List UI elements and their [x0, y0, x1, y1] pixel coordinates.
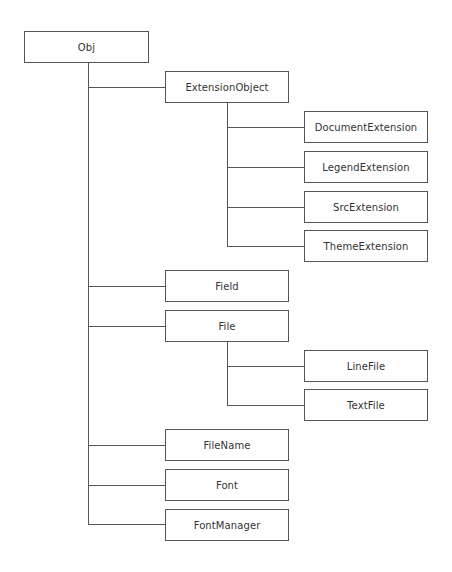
- connector-obj-extensionobject: [88, 87, 165, 88]
- node-legendextension: LegendExtension: [304, 151, 428, 183]
- node-label: ExtensionObject: [185, 82, 268, 93]
- node-label: ThemeExtension: [324, 241, 409, 252]
- node-font: Font: [165, 469, 289, 501]
- node-themeextension: ThemeExtension: [304, 230, 428, 262]
- node-extensionobject: ExtensionObject: [165, 71, 289, 103]
- node-label: Field: [215, 281, 239, 292]
- connector-file-trunk: [227, 342, 228, 406]
- node-filename: FileName: [165, 429, 289, 461]
- connector-extensionobject-trunk: [227, 103, 228, 247]
- connector-obj-trunk: [88, 63, 89, 525]
- node-obj: Obj: [24, 31, 149, 63]
- connector-ext-themeextension: [227, 246, 304, 247]
- connector-ext-documentextension: [227, 127, 304, 128]
- node-label: SrcExtension: [333, 202, 399, 213]
- connector-obj-fontmanager: [88, 524, 165, 525]
- node-label: LegendExtension: [322, 162, 409, 173]
- node-srcextension: SrcExtension: [304, 191, 428, 223]
- node-file: File: [165, 310, 289, 342]
- connector-obj-font: [88, 485, 165, 486]
- node-label: FontManager: [194, 520, 261, 531]
- connector-obj-file: [88, 326, 165, 327]
- node-label: Obj: [78, 42, 95, 53]
- connector-ext-legendextension: [227, 167, 304, 168]
- node-field: Field: [165, 270, 289, 302]
- connector-obj-field: [88, 286, 165, 287]
- connector-file-linefile: [227, 366, 304, 367]
- node-documentextension: DocumentExtension: [304, 111, 428, 143]
- node-label: TextFile: [347, 400, 385, 411]
- node-fontmanager: FontManager: [165, 509, 289, 541]
- node-textfile: TextFile: [304, 389, 428, 421]
- node-linefile: LineFile: [304, 350, 428, 382]
- node-label: FileName: [203, 440, 250, 451]
- node-label: LineFile: [347, 361, 385, 372]
- connector-obj-filename: [88, 445, 165, 446]
- node-label: Font: [216, 480, 238, 491]
- connector-ext-srcextension: [227, 207, 304, 208]
- node-label: File: [218, 321, 235, 332]
- node-label: DocumentExtension: [315, 122, 418, 133]
- connector-file-textfile: [227, 405, 304, 406]
